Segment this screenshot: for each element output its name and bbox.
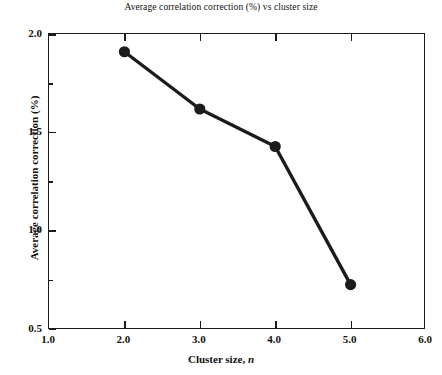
y-tick-minor-1-75 bbox=[49, 83, 53, 85]
x-tick-bottom-4-0 bbox=[275, 321, 277, 328]
y-axis-tick-label: 2.0 bbox=[0, 28, 42, 39]
chart-title: Average correlation correction (%) vs cl… bbox=[0, 2, 442, 12]
y-tick-minor-0-75 bbox=[49, 280, 53, 282]
x-axis-title: Cluster size, n bbox=[0, 353, 442, 365]
x-axis-tick-label: 2.0 bbox=[98, 334, 148, 345]
data-point bbox=[345, 279, 356, 290]
x-tick-top-5-0 bbox=[351, 34, 353, 41]
x-axis-title-variable: n bbox=[248, 353, 254, 365]
data-plot bbox=[49, 34, 426, 330]
data-point bbox=[194, 103, 205, 114]
y-tick-2-0 bbox=[49, 34, 56, 36]
x-axis-tick-label: 5.0 bbox=[325, 334, 375, 345]
x-axis-tick-label: 4.0 bbox=[249, 334, 299, 345]
x-tick-bottom-3-0 bbox=[200, 321, 202, 328]
x-tick-top-2-0 bbox=[124, 34, 126, 41]
y-tick-1-5 bbox=[49, 132, 56, 134]
y-tick-minor-1-25 bbox=[49, 181, 53, 183]
data-line bbox=[124, 52, 350, 285]
data-markers bbox=[119, 46, 356, 290]
data-point bbox=[270, 141, 281, 152]
y-axis-tick-label: 0.5 bbox=[0, 323, 42, 334]
x-axis-title-text: Cluster size, bbox=[188, 353, 245, 365]
y-tick-0-5 bbox=[49, 328, 56, 330]
x-tick-top-3-0 bbox=[200, 34, 202, 41]
x-tick-bottom-2-0 bbox=[124, 321, 126, 328]
plot-area bbox=[48, 33, 425, 329]
y-tick-1-0 bbox=[49, 230, 56, 232]
x-tick-bottom-5-0 bbox=[351, 321, 353, 328]
data-point bbox=[119, 46, 130, 57]
x-axis-tick-label: 3.0 bbox=[174, 334, 224, 345]
y-axis-title: Average correlation correction (%) bbox=[28, 68, 40, 288]
x-tick-top-4-0 bbox=[275, 34, 277, 41]
x-axis-tick-label: 6.0 bbox=[400, 334, 442, 345]
x-axis-tick-label: 1.0 bbox=[23, 334, 73, 345]
